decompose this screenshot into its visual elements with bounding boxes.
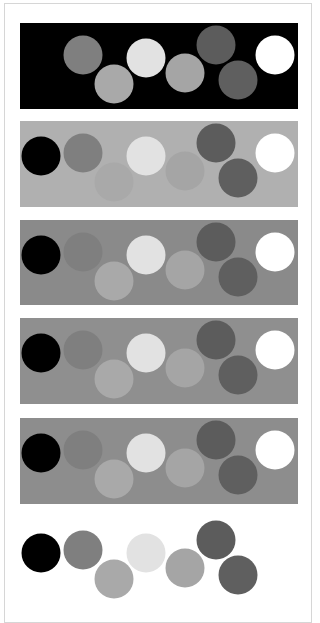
disc-dark-gray-b bbox=[219, 556, 258, 595]
panel-light-gray-background bbox=[20, 121, 298, 207]
disc-light-gray-a bbox=[95, 65, 134, 104]
disc-light-gray-b bbox=[166, 349, 205, 388]
disc-dark-gray-a bbox=[197, 521, 236, 560]
disc-dark-gray-b bbox=[219, 61, 258, 100]
disc-very-light bbox=[127, 434, 166, 473]
disc-very-light bbox=[127, 534, 166, 573]
disc-black bbox=[22, 434, 61, 473]
panel-white-background bbox=[20, 518, 298, 604]
disc-light-gray-b bbox=[166, 449, 205, 488]
disc-white bbox=[256, 134, 295, 173]
disc-very-light bbox=[127, 39, 166, 78]
disc-white bbox=[256, 431, 295, 470]
disc-light-gray-b bbox=[166, 549, 205, 588]
disc-mid-gray bbox=[64, 331, 103, 370]
disc-light-gray-a bbox=[95, 163, 134, 202]
disc-dark-gray-b bbox=[219, 356, 258, 395]
panel-mid-gray-background-1 bbox=[20, 220, 298, 305]
disc-very-light bbox=[127, 334, 166, 373]
disc-light-gray-b bbox=[166, 54, 205, 93]
disc-black bbox=[22, 534, 61, 573]
disc-mid-gray bbox=[64, 134, 103, 173]
disc-light-gray-b bbox=[166, 152, 205, 191]
disc-white bbox=[256, 36, 295, 75]
disc-black bbox=[22, 137, 61, 176]
disc-dark-gray-a bbox=[197, 421, 236, 460]
disc-mid-gray bbox=[64, 233, 103, 272]
disc-light-gray-a bbox=[95, 360, 134, 399]
disc-white bbox=[256, 331, 295, 370]
disc-very-light bbox=[127, 137, 166, 176]
disc-very-light bbox=[127, 236, 166, 275]
disc-dark-gray-b bbox=[219, 456, 258, 495]
disc-white bbox=[256, 233, 295, 272]
panel-mid-gray-background-2 bbox=[20, 318, 298, 404]
disc-mid-gray bbox=[64, 36, 103, 75]
disc-black bbox=[22, 39, 61, 78]
disc-black bbox=[22, 236, 61, 275]
disc-black bbox=[22, 334, 61, 373]
disc-dark-gray-a bbox=[197, 124, 236, 163]
disc-mid-gray bbox=[64, 431, 103, 470]
panel-mid-gray-background-3 bbox=[20, 418, 298, 504]
disc-dark-gray-b bbox=[219, 258, 258, 297]
disc-light-gray-a bbox=[95, 460, 134, 499]
disc-white bbox=[256, 531, 295, 570]
disc-light-gray-b bbox=[166, 251, 205, 290]
disc-dark-gray-a bbox=[197, 26, 236, 65]
panel-black-background bbox=[20, 23, 298, 109]
disc-dark-gray-a bbox=[197, 321, 236, 360]
disc-mid-gray bbox=[64, 531, 103, 570]
disc-dark-gray-a bbox=[197, 223, 236, 262]
disc-light-gray-a bbox=[95, 560, 134, 599]
disc-light-gray-a bbox=[95, 262, 134, 301]
disc-dark-gray-b bbox=[219, 159, 258, 198]
